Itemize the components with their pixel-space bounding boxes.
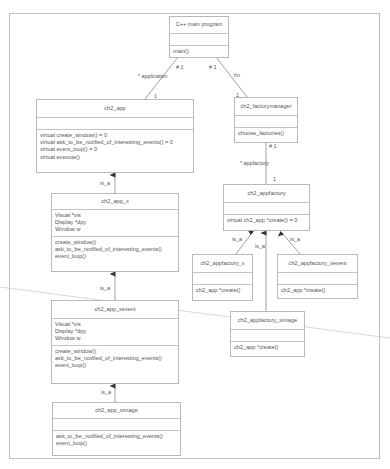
role-label: * appfactory [240, 160, 269, 166]
class-ch2-factorymanager: ch2_factorymanager choose_factories() [234, 97, 298, 143]
attribute: Display *dpy [55, 328, 175, 335]
operation: virtual ch2_app *create() = 0 [227, 217, 306, 224]
class-title: ch2_app_ximage [53, 403, 180, 419]
multiplicity-label: 1 [273, 176, 276, 182]
class-title: C++ main program [170, 17, 228, 34]
class-title: ch2_appfactory [224, 185, 309, 203]
assoc-main-fm [216, 57, 247, 97]
operation: event_loop() [56, 440, 177, 447]
class-ch2-app-x: ch2_app_x Visual *vis Display *dpy Windo… [51, 193, 179, 272]
class-title: ch2_app_x [52, 194, 178, 210]
operation: virtual execute() [40, 154, 190, 161]
operation: ask_to_be_notified_of_interesting_events… [55, 246, 175, 253]
multiplicity-label: # 1 [209, 64, 217, 70]
class-ch2-app-xevent: ch2_app_xevent Visual *vis Display *dpy … [51, 300, 179, 384]
operation: ch2_app *create() [281, 287, 354, 294]
isa-label: is_a [232, 236, 242, 242]
operation: virtual event_loop() = 0 [40, 146, 190, 153]
class-attributes [235, 116, 297, 128]
operation: main() [173, 48, 225, 55]
class-attributes [170, 34, 228, 46]
isa-label: is_a [100, 180, 110, 186]
class-operations: ch2_app *create() [231, 342, 304, 353]
attribute: Window w [55, 226, 175, 233]
role-label: fm [234, 72, 240, 78]
operation: event_loop() [55, 362, 175, 369]
class-ch2-appfactory-x: ch2_appfactory_x ch2_app *create() [192, 254, 253, 301]
class-title: ch2_factorymanager [235, 98, 297, 116]
operation: virtual ask_to_be_notified_of_interestin… [40, 139, 190, 146]
class-attributes [231, 330, 304, 342]
class-operations: virtual create_window() = 0 virtual ask_… [37, 130, 193, 163]
class-title: ch2_appfactory_ximage [231, 312, 304, 330]
multiplicity-label: # 1 [269, 143, 277, 149]
class-attributes [278, 273, 357, 285]
class-operations: choose_factories() [235, 128, 297, 139]
multiplicity-label: 1 [236, 92, 239, 98]
class-operations: ask_to_be_notified_of_interesting_events… [53, 431, 180, 449]
operation: choose_factories() [238, 130, 294, 137]
class-ch2-app: ch2_app virtual create_window() = 0 virt… [36, 99, 194, 173]
class-operations: main() [170, 46, 228, 57]
operation: create_window() [55, 348, 175, 355]
class-attributes: Visual *vis Display *dpy Window w [52, 210, 178, 237]
class-ch2-appfactory-xevent: ch2_appfactory_xevent ch2_app *create() [277, 254, 358, 299]
isa-label: is_a [100, 285, 110, 291]
class-ch2-appfactory-ximage: ch2_appfactory_ximage ch2_app *create() [230, 311, 305, 357]
class-title: ch2_app [37, 100, 193, 118]
class-operations: virtual ch2_app *create() = 0 [224, 215, 309, 226]
operation: ch2_app *create() [234, 344, 301, 351]
class-attributes [193, 273, 252, 285]
attribute: Visual *vis [55, 321, 175, 328]
multiplicity-label: # 1 [176, 64, 184, 70]
operation: ch2_app *create() [196, 287, 249, 294]
class-attributes: Visual *vis Display *dpy Window w [52, 319, 178, 346]
isa-label: is_a [255, 243, 265, 249]
class-operations: create_window() ask_to_be_notified_of_in… [52, 237, 178, 263]
class-attributes [53, 419, 180, 431]
class-ch2-app-ximage: ch2_app_ximage ask_to_be_notified_of_int… [52, 402, 181, 456]
role-label: * application [138, 73, 167, 79]
class-attributes [224, 203, 309, 215]
class-title: ch2_appfactory_x [193, 255, 252, 273]
attribute: Window w [55, 335, 175, 342]
class-title: ch2_app_xevent [52, 301, 178, 319]
class-ch2-appfactory: ch2_appfactory virtual ch2_app *create()… [223, 184, 310, 231]
multiplicity-label: 1 [154, 93, 157, 99]
class-main-program: C++ main program main() [169, 16, 229, 58]
operation: ask_to_be_notified_of_interesting_events… [56, 433, 177, 440]
operation: ask_to_be_notified_of_interesting_events… [55, 355, 175, 362]
operation: create_window() [55, 239, 175, 246]
operation: event_loop() [55, 253, 175, 260]
class-operations: ch2_app *create() [193, 285, 252, 296]
isa-label: is_a [290, 236, 300, 242]
attribute: Display *dpy [55, 219, 175, 226]
class-operations: create_window() ask_to_be_notified_of_in… [52, 346, 178, 372]
class-title: ch2_appfactory_xevent [278, 255, 357, 273]
attribute: Visual *vis [55, 212, 175, 219]
operation: virtual create_window() = 0 [40, 132, 190, 139]
class-operations: ch2_app *create() [278, 285, 357, 296]
class-attributes [37, 118, 193, 130]
isa-label: is_a [101, 389, 111, 395]
